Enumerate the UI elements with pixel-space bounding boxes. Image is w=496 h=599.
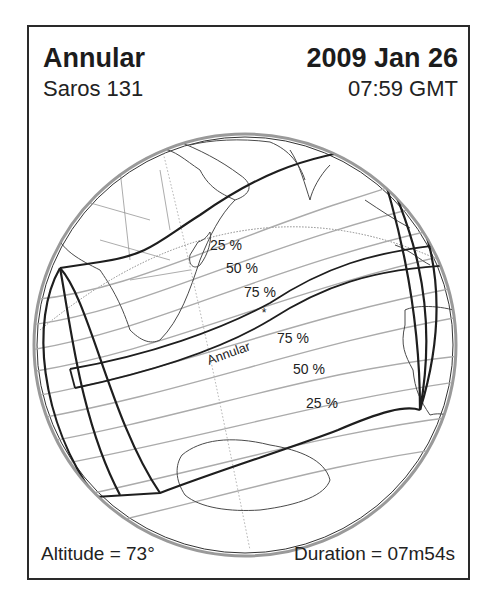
duration-value: Duration = 07m54s [294, 543, 455, 565]
greatest-eclipse-marker: * [262, 306, 267, 320]
eclipse-globe-map: * 25 % 50 % 75 % 75 % 50 % 25 % Annular [0, 0, 496, 599]
label-south-75: 75 % [277, 330, 309, 346]
label-south-25: 25 % [306, 395, 338, 411]
label-north-25: 25 % [210, 237, 242, 253]
label-south-50: 50 % [293, 361, 325, 377]
altitude-value: Altitude = 73° [41, 543, 155, 565]
label-north-75: 75 % [244, 284, 276, 300]
label-north-50: 50 % [226, 260, 258, 276]
